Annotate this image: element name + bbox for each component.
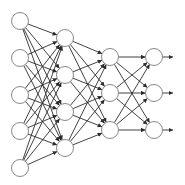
connection-arrow [28, 24, 57, 35]
neurons [12, 13, 163, 177]
hidden-1-neuron-2 [57, 67, 74, 84]
connection-arrow [23, 46, 62, 160]
output-neuron-2 [146, 85, 163, 102]
connection-arrow [70, 45, 104, 87]
input-neuron-3 [12, 87, 29, 104]
input-neuron-1 [12, 13, 29, 30]
input-neuron-4 [12, 123, 29, 140]
connection-arrow [73, 60, 102, 72]
hidden-2-neuron-3 [102, 122, 119, 139]
connection-arrow [28, 41, 57, 54]
connection-arrow [73, 41, 102, 53]
connection-arrow [70, 64, 104, 106]
connection-arrow [24, 46, 62, 124]
connection-arrow [73, 133, 102, 145]
connection-arrow [69, 65, 106, 141]
hidden-2-neuron-2 [102, 85, 119, 102]
hidden-1-neuron-3 [57, 104, 74, 121]
connection-arrow [25, 119, 59, 162]
output-neuron-3 [146, 122, 163, 139]
connection-arrow [70, 100, 104, 142]
network-canvas [0, 0, 185, 185]
input-neuron-2 [12, 50, 29, 67]
hidden-1-neuron-4 [57, 140, 74, 157]
input-neuron-5 [12, 160, 29, 177]
hidden-2-neuron-1 [102, 49, 119, 66]
hidden-1-neuron-1 [57, 30, 74, 47]
output-neuron-1 [146, 49, 163, 66]
